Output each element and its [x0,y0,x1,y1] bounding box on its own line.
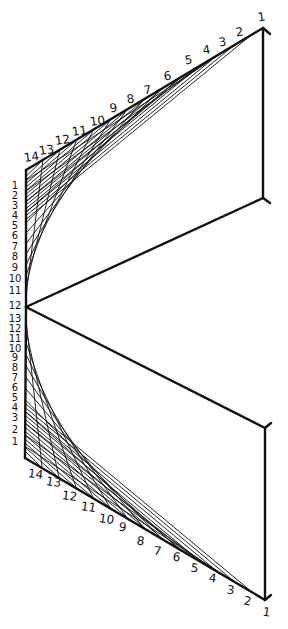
bottom-label-4: 4 [208,571,218,586]
top-label-9: 9 [109,101,119,116]
bottom-label-5: 5 [190,561,200,576]
bottom-label-3: 3 [226,583,236,598]
lower-cross-8 [25,427,148,530]
top-label-10: 10 [89,113,106,129]
upper-foot-tick [263,198,270,203]
lower-left-label-2: 2 [12,424,18,435]
upper-left-label-8: 8 [12,251,18,262]
upper-left-label-9: 9 [12,262,18,273]
string-art-diagram: 1234567891011121314123456789101112131211… [0,0,288,629]
bottom-label-11: 11 [80,499,97,515]
upper-v-line [26,198,263,307]
upper-cross-10 [26,77,182,205]
bottom-label-2: 2 [243,594,253,609]
upper-cross-14 [26,35,251,219]
top-label-1: 1 [257,10,267,25]
diagram-canvas: 1234567891011121314123456789101112131211… [0,0,288,629]
lower-v-line [26,307,265,428]
bottom-label-10: 10 [98,511,115,527]
top-label-5: 5 [184,53,194,68]
upper-left-label-10: 10 [9,273,22,284]
bottom-label-6: 6 [172,550,182,565]
string-lines [25,35,253,593]
top-label-11: 11 [71,123,88,139]
bottom-label-13: 13 [45,474,62,490]
top-label-4: 4 [202,43,212,58]
lower-cross-13 [25,408,235,583]
top-label-14: 14 [23,149,40,165]
top-label-7: 7 [143,83,153,98]
lower-head-tick [265,423,271,428]
lower-cross-12 [25,412,218,573]
lower-cross-14 [25,404,253,593]
upper-left-label-12: 12 [9,300,22,311]
bottom-label-7: 7 [153,544,163,559]
top-label-8: 8 [126,92,136,107]
bottom-label-14: 14 [27,466,44,482]
top-label-12: 12 [54,132,71,148]
upper-left-label-6: 6 [12,230,18,241]
bottom-label-12: 12 [61,488,78,504]
bottom-label-1: 1 [262,605,272,620]
top-label-6: 6 [163,69,173,84]
top-label-13: 13 [38,142,55,158]
upper-cross-11 [26,66,199,208]
upper-cross-13 [26,45,234,215]
lower-left-label-1: 1 [12,436,18,447]
top-label-2: 2 [235,25,245,40]
bottom-label-9: 9 [118,520,128,535]
bottom-label-8: 8 [136,534,146,549]
lower-left-label-3: 3 [12,412,18,423]
upper-left-label-11: 11 [9,285,22,296]
top-label-3: 3 [218,35,228,50]
